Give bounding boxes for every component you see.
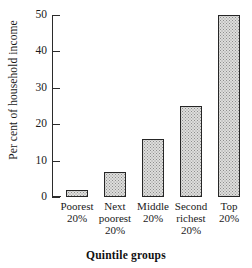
y-tick-label: 40: [36, 46, 48, 58]
y-tick-mark: [52, 197, 60, 198]
y-tick-mark: [52, 15, 60, 16]
y-tick: 30: [52, 88, 60, 89]
y-tick: 10: [52, 161, 60, 162]
bar: [142, 139, 164, 197]
y-tick-label: 30: [36, 82, 48, 94]
x-axis-title: Quintile groups: [0, 249, 252, 261]
y-axis-title: Per cent of household income: [6, 0, 20, 190]
y-tick-label: 0: [41, 191, 47, 203]
y-axis-line: [52, 15, 53, 197]
y-tick-mark: [52, 51, 60, 52]
y-tick-mark: [52, 88, 60, 89]
y-tick-mark: [52, 161, 60, 162]
y-tick-label: 20: [36, 118, 48, 130]
y-tick-label: 50: [36, 9, 48, 21]
bar: [104, 172, 126, 197]
bar: [218, 15, 240, 197]
y-tick-label: 10: [36, 155, 48, 167]
bar: [180, 106, 202, 197]
y-tick-mark: [52, 124, 60, 125]
y-tick: 0: [52, 197, 60, 198]
y-tick: 20: [52, 124, 60, 125]
plot-area: 01020304050: [52, 15, 242, 197]
bar-chart-figure: Per cent of household income 01020304050…: [0, 0, 252, 268]
y-tick: 40: [52, 51, 60, 52]
bar: [66, 190, 88, 197]
x-category-label: Top 20%: [206, 200, 252, 224]
y-tick: 50: [52, 15, 60, 16]
